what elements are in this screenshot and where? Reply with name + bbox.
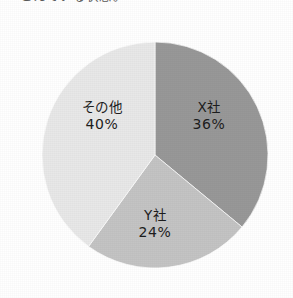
pie-slice-name-other: その他	[82, 99, 122, 115]
pie-slice-value-x: 36%	[178, 116, 240, 133]
pie-slice-name-x: X社	[198, 99, 221, 115]
pie-slice-label-y: Y社 24%	[124, 207, 186, 240]
pie-chart: X社 36% Y社 24% その他 40%	[0, 0, 293, 298]
pie-slice-value-y: 24%	[124, 224, 186, 241]
pie-slice-label-x: X社 36%	[178, 99, 240, 132]
pie-slice-name-y: Y社	[144, 207, 166, 223]
pie-slice-label-other: その他 40%	[62, 99, 142, 132]
pie-chart-svg	[0, 0, 293, 298]
pie-slice-value-other: 40%	[62, 116, 142, 133]
